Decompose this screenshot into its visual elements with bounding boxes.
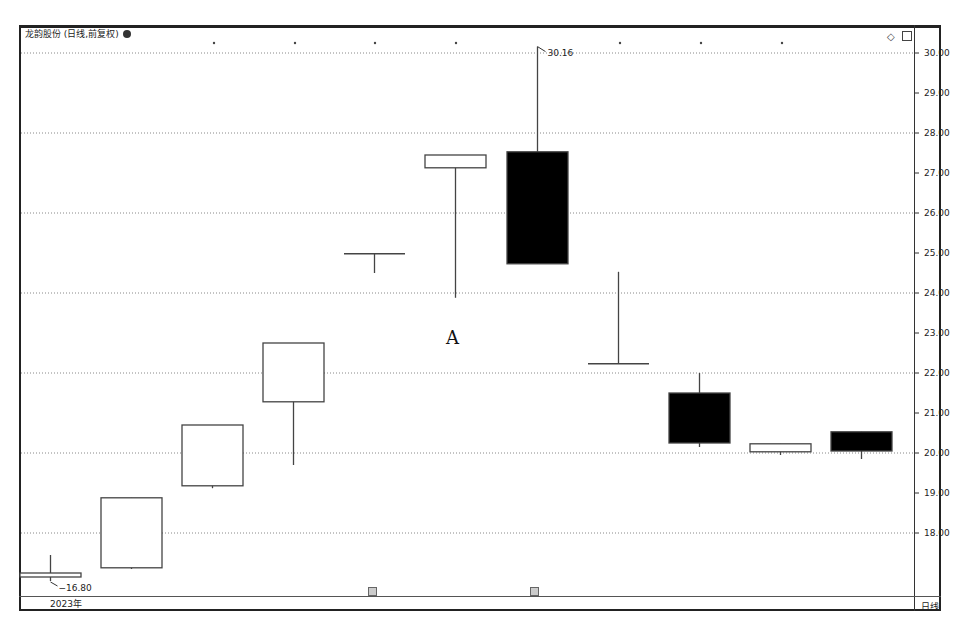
candle-body[interactable] bbox=[182, 425, 243, 486]
y-tick-label: 23.00 bbox=[924, 328, 950, 338]
y-tick-label: 26.00 bbox=[924, 208, 950, 218]
top-dot-marker bbox=[781, 42, 783, 44]
candle-body[interactable] bbox=[507, 152, 568, 264]
annotation-a: A bbox=[446, 327, 459, 348]
candle-body[interactable] bbox=[101, 498, 162, 568]
high-arrow-icon bbox=[538, 47, 546, 52]
y-tick-label: 27.00 bbox=[924, 168, 950, 178]
top-dot-marker bbox=[619, 42, 621, 44]
event-marker-icon[interactable] bbox=[368, 587, 377, 596]
low-price-label: −16.80 bbox=[59, 583, 93, 593]
candle-body[interactable] bbox=[831, 432, 892, 451]
candle-body[interactable] bbox=[20, 573, 81, 577]
top-dot-marker bbox=[374, 42, 376, 44]
top-dot-marker bbox=[213, 42, 215, 44]
time-axis-divider bbox=[19, 596, 941, 597]
candle-body[interactable] bbox=[425, 155, 486, 168]
low-arrow-icon bbox=[51, 582, 58, 586]
y-tick-label: 29.00 bbox=[924, 88, 950, 98]
candlestick-chart: 30.16−16.80 bbox=[0, 0, 966, 635]
y-tick-label: 21.00 bbox=[924, 408, 950, 418]
top-dot-marker bbox=[700, 42, 702, 44]
price-axis-divider bbox=[914, 25, 915, 611]
top-dot-marker bbox=[294, 42, 296, 44]
event-marker-icon[interactable] bbox=[530, 587, 539, 596]
period-label[interactable]: 日线 bbox=[921, 600, 939, 613]
y-tick-label: 28.00 bbox=[924, 128, 950, 138]
candle-body[interactable] bbox=[263, 343, 324, 402]
y-tick-label: 24.00 bbox=[924, 288, 950, 298]
y-tick-label: 20.00 bbox=[924, 448, 950, 458]
high-price-label: 30.16 bbox=[548, 48, 574, 58]
candle-body[interactable] bbox=[669, 393, 730, 443]
top-dot-marker bbox=[455, 42, 457, 44]
y-tick-label: 30.00 bbox=[924, 48, 950, 58]
year-label: 2023年 bbox=[50, 597, 82, 610]
y-tick-label: 18.00 bbox=[924, 528, 950, 538]
candle-body[interactable] bbox=[750, 444, 811, 452]
y-tick-label: 22.00 bbox=[924, 368, 950, 378]
y-tick-label: 19.00 bbox=[924, 488, 950, 498]
y-tick-label: 25.00 bbox=[924, 248, 950, 258]
